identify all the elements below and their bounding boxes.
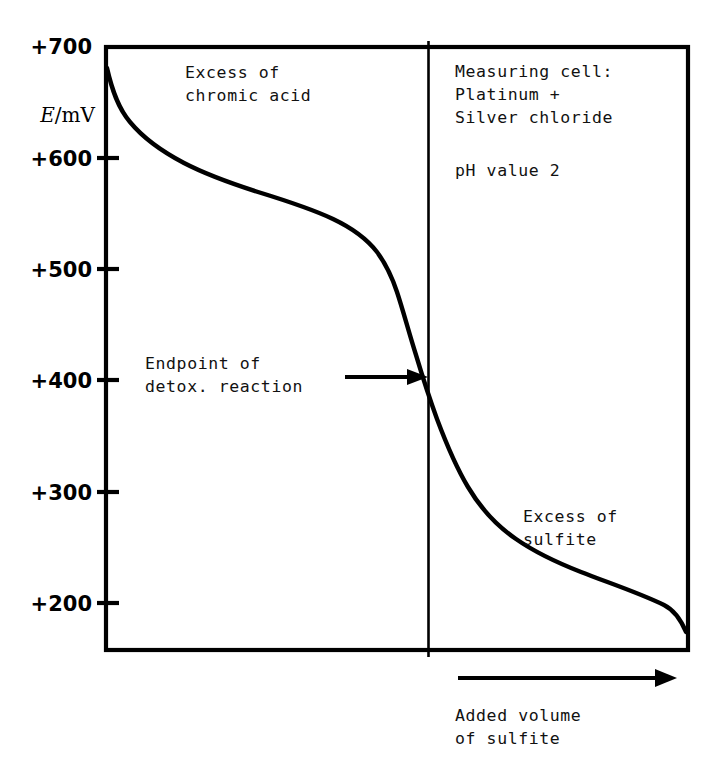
annotation-measuring-cell-line2: Platinum + bbox=[455, 85, 560, 104]
annotation-excess-sulfite-line2: sulfite bbox=[523, 530, 597, 549]
x-axis-caption-line2: of sulfite bbox=[455, 729, 560, 748]
y-tick-label-300: +300 bbox=[31, 481, 92, 505]
annotation-measuring-cell-line3: Silver chloride bbox=[455, 108, 613, 127]
titration-curve-figure: +700 +600 +500 +400 +300 +200 E/mV Exces… bbox=[0, 0, 717, 771]
y-tick-label-500: +500 bbox=[31, 258, 92, 282]
chart-canvas: +700 +600 +500 +400 +300 +200 E/mV Exces… bbox=[0, 0, 717, 771]
y-tick-label-700: +700 bbox=[31, 35, 92, 59]
annotation-endpoint-line1: Endpoint of bbox=[145, 354, 261, 373]
annotation-endpoint-line2: detox. reaction bbox=[145, 377, 303, 396]
y-tick-label-200: +200 bbox=[31, 592, 92, 616]
annotation-excess-chromic-acid-line2: chromic acid bbox=[185, 86, 311, 105]
annotation-excess-sulfite-line1: Excess of bbox=[523, 507, 618, 526]
annotation-ph-value: pH value 2 bbox=[455, 161, 560, 180]
x-axis-caption-line1: Added volume bbox=[455, 706, 581, 725]
annotation-measuring-cell-line1: Measuring cell: bbox=[455, 62, 613, 81]
y-tick-label-400: +400 bbox=[31, 369, 92, 393]
y-axis-title-symbol: E bbox=[39, 103, 55, 127]
y-axis-title-unit: /mV bbox=[55, 103, 96, 127]
y-tick-label-600: +600 bbox=[31, 147, 92, 171]
y-axis-title: E/mV bbox=[39, 103, 95, 127]
annotation-excess-chromic-acid-line1: Excess of bbox=[185, 63, 280, 82]
